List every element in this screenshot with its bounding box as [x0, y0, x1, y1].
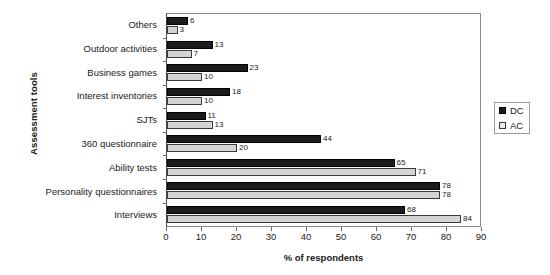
- bar-value-label: 44: [323, 135, 332, 143]
- bar-group: 137: [167, 38, 480, 62]
- bar-group: 63: [167, 14, 480, 38]
- bar-value-label: 13: [215, 121, 224, 129]
- y-axis-tick-mark: [163, 108, 167, 109]
- bar-ac: [167, 144, 237, 152]
- bar-value-label: 3: [180, 26, 184, 34]
- y-axis-category-label: Interest inventories: [18, 84, 162, 108]
- bar-value-label: 13: [215, 41, 224, 49]
- bar-ac: [167, 26, 178, 34]
- x-axis-tick-label: 20: [231, 232, 242, 242]
- y-axis-tick-mark: [163, 61, 167, 62]
- bar-dc: [167, 64, 248, 72]
- bar-dc: [167, 206, 405, 214]
- y-axis-category-label: Others: [18, 13, 162, 37]
- bar-value-label: 23: [250, 64, 259, 72]
- bar-group: 7878: [167, 179, 480, 203]
- x-axis-tick-label: 40: [301, 232, 312, 242]
- bar-row: 10: [167, 97, 480, 105]
- bar-value-label: 65: [397, 159, 406, 167]
- bar-value-label: 71: [418, 168, 427, 176]
- y-axis-category-label: Ability tests: [18, 156, 162, 180]
- bar-value-label: 7: [194, 50, 198, 58]
- bar-row: 68: [167, 206, 480, 214]
- y-axis-tick-mark: [163, 85, 167, 86]
- bar-dc: [167, 88, 230, 96]
- bar-row: 18: [167, 88, 480, 96]
- bar-group: 6884: [167, 203, 480, 227]
- bar-row: 71: [167, 168, 480, 176]
- filled-black-square-icon: [499, 107, 506, 114]
- bar-value-label: 78: [442, 182, 451, 190]
- x-axis-tick-label: 50: [336, 232, 347, 242]
- bar-row: 10: [167, 73, 480, 81]
- bar-ac: [167, 191, 440, 199]
- plot-area: 631372310181011134420657178786884: [166, 13, 481, 227]
- bar-value-label: 11: [208, 112, 216, 120]
- y-axis-tick-mark: [163, 179, 167, 180]
- x-axis-tick-label: 80: [441, 232, 452, 242]
- bar-group: 1113: [167, 108, 480, 132]
- x-axis-title: % of respondents: [166, 252, 481, 263]
- bar-value-label: 78: [442, 191, 451, 199]
- bar-group: 6571: [167, 155, 480, 179]
- y-axis-category-label: Personality questionnaires: [18, 179, 162, 203]
- bar-dc: [167, 182, 440, 190]
- x-axis-tick-label: 70: [406, 232, 417, 242]
- bar-row: 13: [167, 121, 480, 129]
- bar-ac: [167, 97, 202, 105]
- bar-value-label: 68: [407, 206, 416, 214]
- bar-value-label: 84: [463, 215, 472, 223]
- bar-groups: 631372310181011134420657178786884: [167, 14, 480, 226]
- bar-dc: [167, 112, 206, 120]
- legend-label: AC: [510, 121, 523, 131]
- legend-item[interactable]: DC: [499, 106, 524, 116]
- x-axis-ticks: 0102030405060708090: [166, 227, 481, 232]
- bar-value-label: 10: [204, 73, 213, 81]
- legend-label: DC: [510, 106, 524, 116]
- y-axis-category-label: Interviews: [18, 203, 162, 227]
- y-axis-tick-mark: [163, 155, 167, 156]
- bar-row: 78: [167, 182, 480, 190]
- bar-row: 13: [167, 41, 480, 49]
- bar-row: 23: [167, 64, 480, 72]
- bar-dc: [167, 135, 321, 143]
- bar-row: 20: [167, 144, 480, 152]
- bar-ac: [167, 215, 461, 223]
- x-axis-tick-label: 0: [163, 232, 168, 242]
- outlined-light-square-icon: [499, 122, 506, 129]
- legend-item[interactable]: AC: [499, 121, 524, 131]
- chart-legend: DCAC: [494, 102, 530, 134]
- y-axis-tick-mark: [163, 203, 167, 204]
- x-axis-tick-label: 30: [266, 232, 277, 242]
- bar-group: 1810: [167, 85, 480, 109]
- y-axis-tick-mark: [163, 38, 167, 39]
- bar-row: 11: [167, 112, 480, 120]
- bar-dc: [167, 41, 213, 49]
- bar-dc: [167, 17, 188, 25]
- bar-row: 6: [167, 17, 480, 25]
- bar-chart: Assessment tools OthersOutdoor activitie…: [0, 0, 550, 275]
- bar-ac: [167, 50, 192, 58]
- y-axis-category-label: Outdoor activities: [18, 37, 162, 61]
- bar-group: 2310: [167, 61, 480, 85]
- bar-row: 44: [167, 135, 480, 143]
- bar-row: 78: [167, 191, 480, 199]
- bar-row: 3: [167, 26, 480, 34]
- bar-value-label: 18: [232, 88, 241, 96]
- bar-value-label: 20: [239, 144, 248, 152]
- bar-ac: [167, 73, 202, 81]
- bar-dc: [167, 159, 395, 167]
- x-axis-tick-label: 90: [476, 232, 487, 242]
- bar-value-label: 6: [190, 17, 194, 25]
- bar-ac: [167, 168, 416, 176]
- bar-row: 65: [167, 159, 480, 167]
- bar-row: 84: [167, 215, 480, 223]
- y-axis-tick-mark: [163, 132, 167, 133]
- x-axis-tick-label: 10: [196, 232, 207, 242]
- y-axis-category-label: SJTs: [18, 108, 162, 132]
- bar-row: 7: [167, 50, 480, 58]
- y-axis-category-labels: OthersOutdoor activitiesBusiness gamesIn…: [18, 13, 162, 227]
- bar-value-label: 10: [204, 97, 213, 105]
- y-axis-category-label: 360 questionnaire: [18, 132, 162, 156]
- y-axis-category-label: Business games: [18, 61, 162, 85]
